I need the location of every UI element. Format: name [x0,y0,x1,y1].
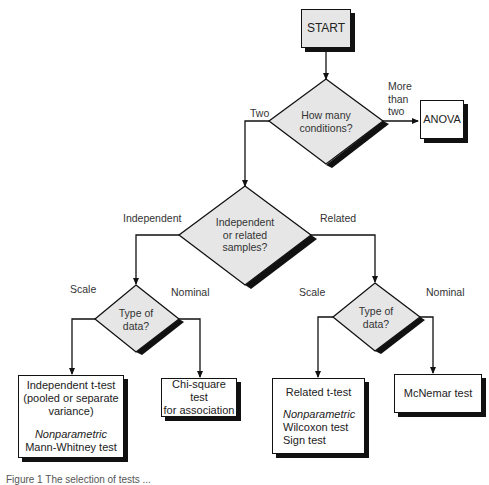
branch-label-related: Related [320,212,356,224]
start-node: START [301,9,351,48]
conditions-question: How many conditions? [286,109,366,134]
branch-label-two: Two [250,107,269,119]
branch-label-nominal-right: Nominal [426,286,465,298]
branch-label-scale-right: Scale [299,286,325,298]
branch-label-scale-left: Scale [70,283,96,295]
outcome-related-t-test: Related t-test Nonparametric Wilcoxon te… [272,378,365,454]
start-label: START [307,22,345,35]
type-of-data-left-question: Type of data? [106,307,166,332]
branch-label-nominal-left: Nominal [171,286,210,298]
outcome-chi-square: Chi-square test for association [161,378,237,417]
outcome-anova: ANOVA [420,100,464,139]
samples-question: Independent or related samples? [200,216,290,254]
outcome-mcnemar: McNemar test [394,374,482,413]
related-nonparametric-list: Nonparametric Wilcoxon test Sign test [273,408,355,447]
branch-label-more-than-two: More than two [388,80,412,118]
branch-label-independent: Independent [123,212,181,224]
figure-caption: Figure 1 The selection of tests ... [6,474,151,485]
type-of-data-right-question: Type of data? [346,305,406,330]
outcome-independent-t-test: Independent t-test (pooled or separate v… [18,375,124,458]
